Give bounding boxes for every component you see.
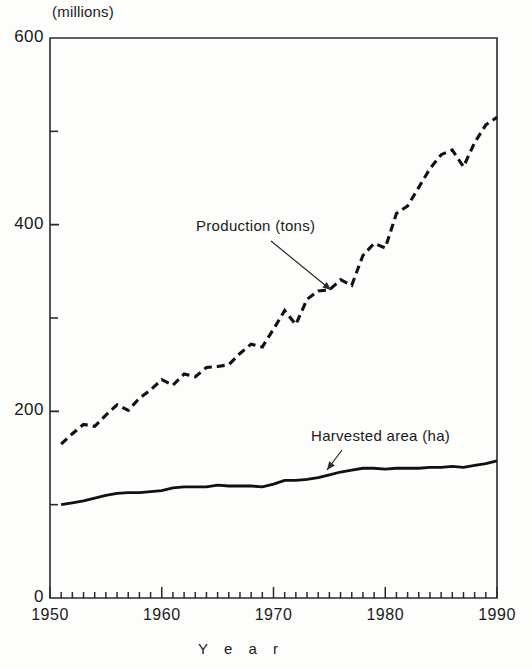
x-tick-label: 1960 xyxy=(132,606,192,624)
x-tick-label: 1970 xyxy=(244,606,304,624)
x-tick-label: 1990 xyxy=(467,606,527,624)
x-tick-label: 1950 xyxy=(20,606,80,624)
x-tick-label: 1980 xyxy=(355,606,415,624)
chart-canvas xyxy=(0,0,532,669)
y-tick-label: 200 xyxy=(0,400,44,420)
y-tick-label: 0 xyxy=(0,587,44,607)
x-axis-title: Y e a r xyxy=(198,640,284,657)
chart-figure: (millions) 02004006001950196019701980199… xyxy=(0,0,532,669)
annotation-production-label: Production (tons) xyxy=(196,217,315,234)
y-tick-label: 400 xyxy=(0,214,44,234)
y-tick-label: 600 xyxy=(0,27,44,47)
annotation-harvested-area-label: Harvested area (ha) xyxy=(311,427,450,444)
